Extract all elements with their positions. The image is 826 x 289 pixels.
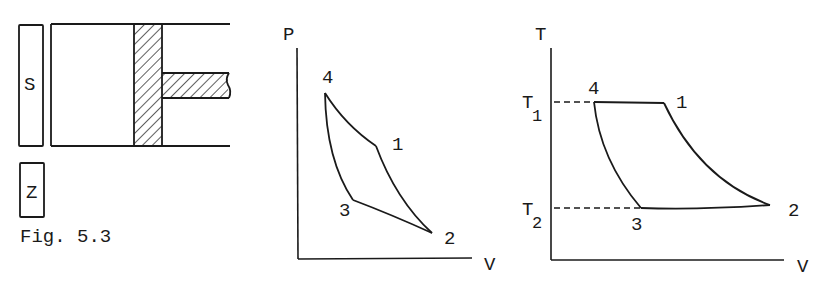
- tv-point-3-label: 3: [631, 214, 642, 236]
- pv-y-axis-label: P: [283, 24, 294, 46]
- tv-point-2-label: 2: [788, 200, 799, 222]
- tv-x-axis-label: V: [797, 256, 809, 278]
- t1-subscript: 1: [532, 107, 542, 126]
- pv-curve-2-3: [353, 200, 432, 233]
- pv-curve-4-1: [325, 93, 376, 146]
- reservoir-s: S: [19, 25, 43, 146]
- pv-point-2-label: 2: [444, 228, 455, 250]
- piston: [134, 24, 162, 146]
- tv-curve-2-3: [641, 205, 770, 209]
- tv-curve-1-2: [664, 103, 770, 205]
- tv-curve-4-1: [594, 102, 664, 103]
- tv-point-4-label: 4: [588, 78, 599, 100]
- pv-x-axis-label: V: [484, 254, 496, 276]
- pv-x-axis: [298, 258, 472, 259]
- tv-curve-3-4: [594, 102, 641, 208]
- tv-diagram: T V T 1 T 2 4 1 2 3: [522, 24, 809, 278]
- pv-diagram: P V 4 1 2 3: [283, 24, 496, 276]
- pv-y-axis: [297, 48, 298, 259]
- figure-caption: Fig. 5.3: [20, 226, 111, 248]
- pv-point-3-label: 3: [339, 200, 350, 222]
- reservoir-s-label: S: [24, 74, 35, 96]
- t2-subscript: 2: [532, 214, 542, 233]
- figure-canvas: S Z Fig. 5.3 P V: [0, 0, 826, 289]
- piston-rod: [162, 73, 230, 98]
- apparatus: S Z Fig. 5.3: [19, 24, 230, 248]
- pv-curve-3-4: [325, 93, 353, 200]
- tv-point-1-label: 1: [676, 92, 687, 114]
- reservoir-z-label: Z: [26, 182, 37, 204]
- pv-point-1-label: 1: [392, 134, 403, 156]
- pv-point-4-label: 4: [322, 67, 333, 89]
- piston-rod-fill: [162, 73, 228, 98]
- reservoir-z: Z: [20, 163, 44, 217]
- tv-y-axis-label: T: [535, 24, 546, 46]
